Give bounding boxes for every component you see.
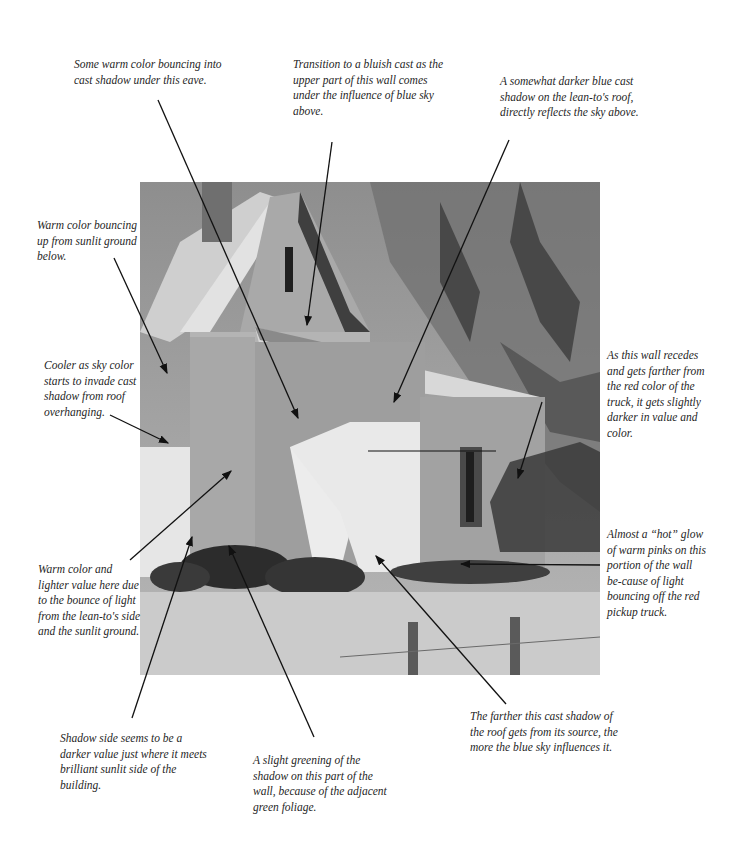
annotation-warm-eave: Some warm color bouncing into cast shado… xyxy=(74,57,224,88)
annotation-warm-lighter: Warm color and lighter value here due to… xyxy=(38,562,143,640)
annotation-greening: A slight greening of the shadow on this … xyxy=(253,753,393,815)
annotation-lean-to-roof: A somewhat darker blue cast shadow on th… xyxy=(500,74,665,121)
annotation-shadow-side: Shadow side seems to be a darker value j… xyxy=(60,731,210,793)
annotation-warm-up: Warm color bouncing up from sunlit groun… xyxy=(37,218,147,265)
annotation-farther-shadow: The farther this cast shadow of the roof… xyxy=(470,709,625,756)
annotation-recedes: As this wall recedes and gets farther fr… xyxy=(607,348,707,441)
house-painting xyxy=(140,182,600,675)
annotation-bluish-cast: Transition to a bluish cast as the upper… xyxy=(293,57,453,119)
annotation-hot-glow: Almost a “hot” glow of warm pinks on thi… xyxy=(607,527,707,620)
annotation-cooler: Cooler as sky color starts to invade cas… xyxy=(44,358,144,420)
